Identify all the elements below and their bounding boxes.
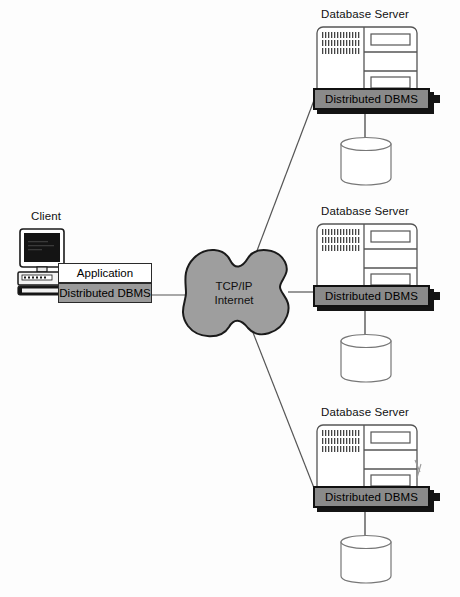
server-2-title: Database Server bbox=[300, 205, 430, 217]
server-1-title: Database Server bbox=[300, 8, 430, 20]
client-dbms-label: Distributed DBMS bbox=[59, 287, 150, 299]
server-1-dbms-label: Distributed DBMS bbox=[325, 93, 418, 105]
cloud-label: TCP/IP Internet bbox=[174, 279, 294, 307]
client-application-box[interactable]: Application bbox=[58, 263, 152, 283]
server-2-dbms-bar[interactable]: Distributed DBMS bbox=[313, 285, 430, 307]
database-cylinder-icon bbox=[339, 333, 393, 383]
client-label: Client bbox=[31, 210, 61, 222]
scan-artifact-mark bbox=[412, 458, 426, 484]
cloud-label-line1: TCP/IP bbox=[174, 279, 294, 293]
server-3-dbms-label: Distributed DBMS bbox=[325, 491, 418, 503]
server-3-title: Database Server bbox=[300, 406, 430, 418]
database-cylinder-icon bbox=[339, 534, 393, 584]
client-application-label: Application bbox=[77, 267, 133, 279]
client-dbms-box[interactable]: Distributed DBMS bbox=[58, 283, 152, 303]
distributed-dbms-diagram: Client Application Distributed DBMS bbox=[0, 0, 460, 597]
cloud-label-line2: Internet bbox=[174, 293, 294, 307]
server-2-dbms-label: Distributed DBMS bbox=[325, 290, 418, 302]
database-cylinder-icon bbox=[339, 136, 393, 186]
server-3-dbms-bar[interactable]: Distributed DBMS bbox=[313, 486, 430, 508]
server-1-dbms-bar[interactable]: Distributed DBMS bbox=[313, 88, 430, 110]
connection-cloud-to-server-1 bbox=[255, 95, 316, 256]
